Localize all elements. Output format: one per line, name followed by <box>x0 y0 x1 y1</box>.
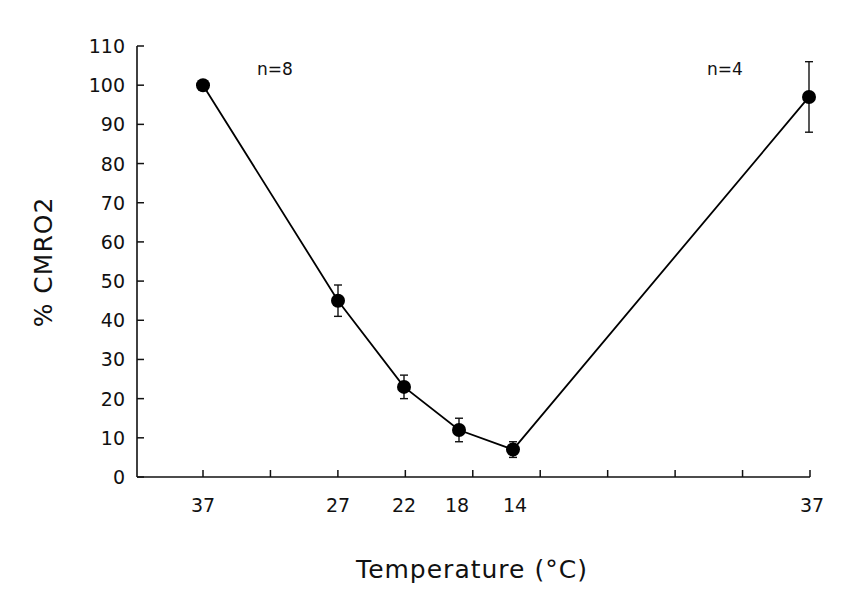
y-tick-label: 110 <box>89 35 125 57</box>
x-tick-label: 37 <box>191 494 215 516</box>
y-tick-label: 90 <box>101 113 125 135</box>
data-point-marker <box>802 90 816 104</box>
y-tick-label: 30 <box>101 348 125 370</box>
series-line <box>203 85 809 449</box>
data-point-marker <box>196 78 210 92</box>
data-point-marker <box>506 443 520 457</box>
y-tick-label: 100 <box>89 74 125 96</box>
y-tick-label: 70 <box>101 192 125 214</box>
y-tick-label: 10 <box>101 427 125 449</box>
data-point-marker <box>397 380 411 394</box>
annotation-n8: n=8 <box>257 59 293 79</box>
y-tick-label: 60 <box>101 231 125 253</box>
x-tick-label: 18 <box>445 494 469 516</box>
x-tick-label: 27 <box>326 494 350 516</box>
x-axis-title: Temperature (°C) <box>355 555 588 584</box>
y-tick-label: 50 <box>101 270 125 292</box>
x-tick-label: 14 <box>503 494 527 516</box>
y-axis: 0102030405060708090100110 <box>89 35 144 488</box>
x-tick-label: 22 <box>392 494 416 516</box>
data-point-marker <box>452 423 466 437</box>
annotation-n4: n=4 <box>707 59 743 79</box>
data-series <box>196 62 816 458</box>
x-axis: 372722181437 <box>137 470 824 516</box>
y-tick-label: 0 <box>113 466 125 488</box>
y-tick-label: 40 <box>101 309 125 331</box>
x-tick-label: 37 <box>800 494 824 516</box>
y-axis-title: % CMRO2 <box>29 197 58 328</box>
chart: 0102030405060708090100110 372722181437 n… <box>0 0 858 615</box>
y-tick-label: 80 <box>101 153 125 175</box>
data-point-marker <box>331 294 345 308</box>
y-tick-label: 20 <box>101 388 125 410</box>
